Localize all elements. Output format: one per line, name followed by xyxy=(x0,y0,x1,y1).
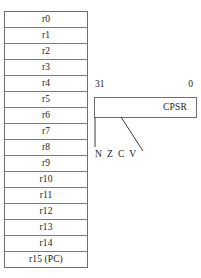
register-row-r12: r12 xyxy=(5,204,87,220)
register-label: r10 xyxy=(40,175,53,185)
register-label: r14 xyxy=(40,239,53,249)
register-label: r15 (PC) xyxy=(29,255,63,265)
cpsr-bit-label-lsb: 0 xyxy=(188,80,193,90)
register-row-r7: r7 xyxy=(5,124,87,140)
register-row-r4: r4 xyxy=(5,76,87,92)
register-label: r0 xyxy=(42,15,50,25)
arm-register-diagram: r0 r1 r2 r3 r4 r5 r6 r7 r8 r9 r10 r11 r1… xyxy=(0,0,201,278)
register-label: r6 xyxy=(42,111,50,121)
register-label: r9 xyxy=(42,159,50,169)
register-row-r11: r11 xyxy=(5,188,87,204)
register-row-r6: r6 xyxy=(5,108,87,124)
register-row-r15-pc: r15 (PC) xyxy=(5,252,87,267)
cpsr-bit-label-msb: 31 xyxy=(95,80,105,90)
register-label: r3 xyxy=(42,63,50,73)
register-label: r2 xyxy=(42,47,50,57)
register-row-r9: r9 xyxy=(5,156,87,172)
cpsr-label: CPSR xyxy=(163,103,196,113)
cpsr-register-box: CPSR xyxy=(94,97,197,118)
register-label: r8 xyxy=(42,143,50,153)
cpsr-flags-label: N Z C V xyxy=(95,150,138,160)
register-label: r13 xyxy=(40,223,53,233)
register-label: r7 xyxy=(42,127,50,137)
register-label: r11 xyxy=(40,191,53,201)
register-label: r1 xyxy=(42,31,50,41)
register-row-r5: r5 xyxy=(5,92,87,108)
register-row-r8: r8 xyxy=(5,140,87,156)
register-row-r1: r1 xyxy=(5,28,87,44)
register-label: r12 xyxy=(40,207,53,217)
register-row-r2: r2 xyxy=(5,44,87,60)
register-row-r14: r14 xyxy=(5,236,87,252)
register-label: r5 xyxy=(42,95,50,105)
register-row-r3: r3 xyxy=(5,60,87,76)
register-row-r13: r13 xyxy=(5,220,87,236)
cpsr-flag-leader-lines xyxy=(94,117,197,153)
cpsr-bit-labels: 31 0 xyxy=(94,80,197,95)
leader-line-diagonal xyxy=(121,117,143,151)
register-file: r0 r1 r2 r3 r4 r5 r6 r7 r8 r9 r10 r11 r1… xyxy=(4,11,88,268)
register-row-r0: r0 xyxy=(5,12,87,28)
register-label: r4 xyxy=(42,79,50,89)
cpsr-group: 31 0 CPSR N Z C V xyxy=(94,80,197,165)
register-row-r10: r10 xyxy=(5,172,87,188)
